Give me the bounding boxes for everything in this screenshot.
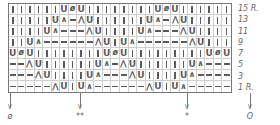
chart-cell xyxy=(60,26,69,37)
knit-icon xyxy=(200,6,202,13)
chart-cell xyxy=(18,70,27,81)
repeat-marker: ∨* xyxy=(177,93,197,121)
no-stitch-icon xyxy=(18,63,24,65)
k2tog-icon: ∧ xyxy=(189,71,196,79)
no-stitch-icon xyxy=(155,30,161,32)
chart-cell xyxy=(77,59,86,70)
chart-cell: ⋀ xyxy=(171,15,180,26)
no-stitch-icon xyxy=(121,74,127,76)
chart-cell xyxy=(129,15,138,26)
no-stitch-icon xyxy=(163,41,169,43)
chart-cell: U xyxy=(94,26,103,37)
chart-cell xyxy=(43,59,52,70)
chart-cell xyxy=(9,70,18,81)
knit-icon xyxy=(149,72,151,79)
chart-cell: ∧ xyxy=(197,59,206,70)
knit-icon xyxy=(149,61,151,68)
chart-cell xyxy=(120,26,129,37)
chart-cell: U xyxy=(146,15,155,26)
knit-icon xyxy=(21,39,23,46)
knit-icon xyxy=(140,17,142,24)
chart-cell xyxy=(205,26,214,37)
chart-cell xyxy=(94,48,103,59)
no-stitch-icon xyxy=(172,41,178,43)
yarn-over-icon: U xyxy=(26,49,33,58)
chart-cell xyxy=(26,4,35,15)
chart-cell: ⋀ xyxy=(129,70,138,81)
chart-cell xyxy=(197,81,206,92)
no-stitch-icon xyxy=(70,30,76,32)
knit-icon xyxy=(29,17,31,24)
chart-cell xyxy=(60,70,69,81)
chart-cell: U xyxy=(43,26,52,37)
knit-icon xyxy=(226,39,228,46)
chart-cell: ∧ xyxy=(35,37,44,48)
knit-icon xyxy=(191,50,193,57)
chart-cell xyxy=(111,70,120,81)
arrow-down-icon: ∨ xyxy=(247,104,253,110)
chart-cell xyxy=(171,70,180,81)
chart-cell: U xyxy=(120,37,129,48)
row-label: 3 xyxy=(238,71,278,82)
chart-cell xyxy=(214,37,223,48)
chart-cell xyxy=(111,4,120,15)
knit-icon xyxy=(123,28,125,35)
chart-cell xyxy=(214,70,223,81)
knit-icon xyxy=(114,17,116,24)
no-stitch-icon xyxy=(121,86,127,88)
knit-icon xyxy=(55,50,57,57)
chart-cell xyxy=(35,26,44,37)
chart-cell xyxy=(43,48,52,59)
knit-icon xyxy=(208,28,210,35)
chart-cell xyxy=(222,4,231,15)
knit-icon xyxy=(12,39,14,46)
ssk-icon: ⋀ xyxy=(129,71,136,79)
ssk-icon: ⋀ xyxy=(52,83,59,91)
chart-cell: U xyxy=(180,70,189,81)
chart-cell: U xyxy=(86,15,95,26)
chart-cell xyxy=(154,48,163,59)
chart-cell xyxy=(163,70,172,81)
no-stitch-icon xyxy=(198,86,204,88)
chart-cell xyxy=(26,81,35,92)
yarn-over-icon: U xyxy=(60,5,67,14)
yarn-over-icon: U xyxy=(103,49,110,58)
no-stitch-icon xyxy=(215,74,221,76)
yarn-over-icon: U xyxy=(86,71,93,80)
knit-icon xyxy=(157,50,159,57)
knit-icon xyxy=(132,28,134,35)
no-stitch-icon xyxy=(10,63,16,65)
chart-cell xyxy=(52,70,61,81)
yarn-over-icon: U xyxy=(43,27,50,36)
chart-cell: ø xyxy=(18,48,27,59)
knit-icon xyxy=(123,17,125,24)
marker-symbol: ø xyxy=(8,112,13,121)
yarn-over-icon: U xyxy=(120,49,127,58)
no-stitch-icon xyxy=(129,86,135,88)
chart-cell xyxy=(137,81,146,92)
yarn-over-icon: U xyxy=(146,16,153,25)
knit-icon xyxy=(208,6,210,13)
chart-cell xyxy=(222,26,231,37)
yarn-over-icon: U xyxy=(154,82,161,91)
yarn-over-icon: U xyxy=(205,49,212,58)
chart-cell xyxy=(43,81,52,92)
knitting-chart-grid: UøUUøUU∧⋀UU∧⋀UU∧⋀UU∧⋀UU∧⋀UU∧⋀UUøUUøUUøU⋀… xyxy=(8,3,232,93)
chart-cell: U xyxy=(120,48,129,59)
chart-cell: ⋀ xyxy=(120,59,129,70)
chart-cell xyxy=(214,4,223,15)
chart-cell xyxy=(52,4,61,15)
chart-cell xyxy=(188,4,197,15)
knit-icon xyxy=(38,50,40,57)
chart-cell xyxy=(197,4,206,15)
chart-cell xyxy=(163,37,172,48)
knit-icon xyxy=(183,50,185,57)
knit-icon xyxy=(38,28,40,35)
yarn-over-icon: U xyxy=(26,38,33,47)
chart-cell: ⋀ xyxy=(35,70,44,81)
row-label: 13 xyxy=(238,14,278,25)
chart-cell xyxy=(146,59,155,70)
knit-icon xyxy=(55,6,57,13)
double-decrease-icon: ø xyxy=(215,49,221,57)
knit-icon xyxy=(183,6,185,13)
